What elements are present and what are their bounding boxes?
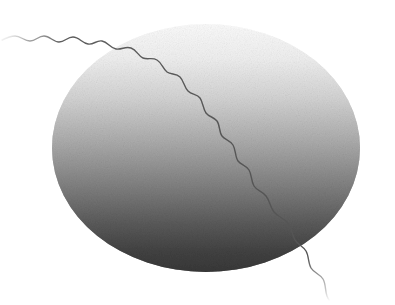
artboard: Abstract grayscale illustration of a gra… <box>0 0 395 305</box>
artwork-canvas <box>0 0 395 305</box>
gradient-sphere <box>52 24 360 272</box>
sphere-grain-overlay <box>52 24 360 272</box>
